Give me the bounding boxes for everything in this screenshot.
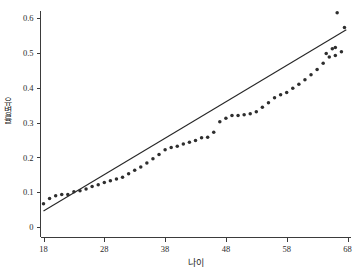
data-point xyxy=(188,141,192,145)
x-axis-ticks: 182838485868 xyxy=(39,238,352,254)
y-tick-label: 0.1 xyxy=(23,187,34,197)
data-point xyxy=(115,177,119,181)
y-tick-label: 0.3 xyxy=(23,118,34,128)
data-point xyxy=(42,202,46,206)
data-point xyxy=(66,193,70,197)
y-tick-label: 0 xyxy=(29,222,33,232)
data-point xyxy=(54,194,58,198)
data-point xyxy=(267,101,271,105)
x-tick-label: 38 xyxy=(161,244,170,254)
data-point xyxy=(96,183,100,187)
data-point xyxy=(84,187,88,191)
data-point xyxy=(334,54,338,58)
data-points-group xyxy=(42,11,346,205)
data-point xyxy=(315,68,319,72)
data-point xyxy=(279,93,283,97)
data-point xyxy=(297,82,301,86)
scatter-plot: 00.10.20.30.40.50.6 182838485868 나이 xyxy=(0,0,362,275)
x-tick-label: 18 xyxy=(39,244,48,254)
data-point xyxy=(303,78,307,82)
data-point xyxy=(176,144,180,148)
data-point xyxy=(334,46,338,50)
data-point xyxy=(78,189,82,193)
y-axis-ticks: 00.10.20.30.40.50.6 xyxy=(23,13,41,232)
data-point xyxy=(121,175,125,179)
data-point xyxy=(206,135,210,139)
x-tick-label: 58 xyxy=(282,244,291,254)
chart-figure: 유 병 률 00.10.20.30.40.50.6 182838485868 나… xyxy=(0,0,362,275)
data-point xyxy=(291,87,295,91)
data-point xyxy=(343,26,347,30)
data-point xyxy=(285,91,289,95)
data-point xyxy=(248,112,252,116)
data-point xyxy=(212,131,216,135)
data-point xyxy=(340,50,344,54)
data-point xyxy=(163,148,167,152)
data-point xyxy=(242,113,246,117)
data-point xyxy=(139,165,143,169)
data-point xyxy=(273,96,277,100)
y-tick-label: 0.6 xyxy=(23,13,34,23)
x-tick-label: 48 xyxy=(222,244,231,254)
y-tick-label: 0.5 xyxy=(23,48,34,58)
data-point xyxy=(200,136,204,140)
x-tick-label: 28 xyxy=(100,244,109,254)
data-point xyxy=(157,153,161,157)
data-point xyxy=(194,139,198,143)
data-point xyxy=(145,161,149,165)
data-point xyxy=(261,105,265,109)
regression-line-group xyxy=(44,30,347,211)
data-point xyxy=(236,114,240,118)
regression-line xyxy=(44,30,347,211)
data-point xyxy=(103,181,107,185)
data-point xyxy=(60,193,64,197)
y-tick-label: 0.2 xyxy=(23,153,34,163)
data-point xyxy=(331,47,335,51)
data-point xyxy=(48,197,52,201)
data-point xyxy=(151,157,155,161)
data-point xyxy=(224,117,228,121)
data-point xyxy=(324,52,328,56)
data-point xyxy=(127,172,131,176)
data-point xyxy=(169,146,173,150)
data-point xyxy=(218,120,222,124)
data-point xyxy=(255,110,259,114)
data-point xyxy=(182,142,186,146)
data-point xyxy=(72,190,76,194)
data-point xyxy=(335,11,339,15)
data-point xyxy=(90,185,94,189)
data-point xyxy=(230,114,234,118)
axes-group xyxy=(41,11,352,238)
data-point xyxy=(133,168,137,172)
data-point xyxy=(321,62,325,66)
data-point xyxy=(309,73,313,77)
y-tick-label: 0.4 xyxy=(23,83,34,93)
data-point xyxy=(328,55,332,59)
x-tick-label: 68 xyxy=(343,244,352,254)
data-point xyxy=(109,179,113,183)
x-axis-title: 나이 xyxy=(188,258,204,268)
